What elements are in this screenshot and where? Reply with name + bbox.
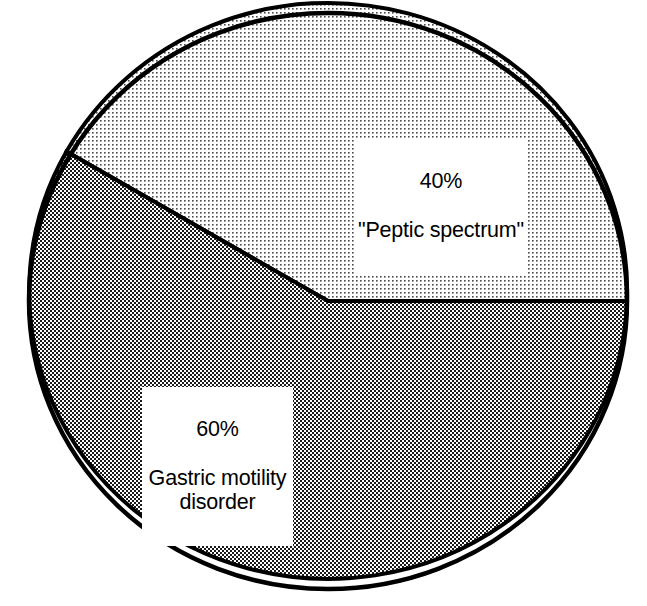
pie-slices <box>29 3 627 589</box>
pie-label-gastric-motility: 60% Gastric motility disorder <box>142 387 293 546</box>
pie-chart-svg <box>0 0 647 606</box>
pie-chart-figure: 40% "Peptic spectrum" 60% Gastric motili… <box>0 0 647 606</box>
pie-label-peptic-name: "Peptic spectrum" <box>354 218 528 243</box>
pie-label-gastric-percent: 60% <box>142 417 293 442</box>
pie-label-peptic-percent: 40% <box>354 169 528 194</box>
pie-label-gastric-name: Gastric motility disorder <box>142 466 293 515</box>
pie-label-peptic-spectrum: 40% "Peptic spectrum" <box>354 139 528 274</box>
